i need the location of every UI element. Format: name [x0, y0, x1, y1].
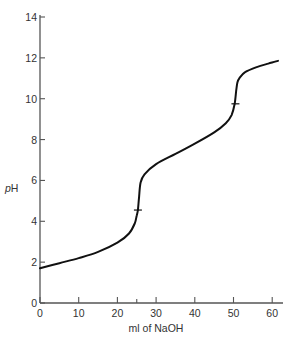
y-axis-title-h: H: [11, 182, 19, 194]
x-axis-title: ml of NaOH: [129, 322, 184, 334]
x-tick-label: 20: [112, 307, 124, 319]
x-tick-label: 30: [150, 307, 162, 319]
x-tick-label: 0: [37, 307, 43, 319]
x-tick-label: 40: [189, 307, 201, 319]
y-axis-title: pH: [4, 182, 18, 194]
titration-chart: 02468101214 0102030405060 ml of NaOH pH: [0, 0, 292, 347]
y-tick-label: 4: [31, 215, 37, 227]
titration-curve: [40, 61, 278, 268]
y-tick-label: 12: [25, 52, 37, 64]
x-tick-label: 60: [266, 307, 278, 319]
x-tick-label: 50: [228, 307, 240, 319]
x-tick-label: 10: [73, 307, 85, 319]
y-tick-label: 8: [31, 134, 37, 146]
y-tick-label: 10: [25, 93, 37, 105]
x-axis: 0102030405060: [37, 297, 283, 319]
y-tick-label: 2: [31, 256, 37, 268]
y-tick-label: 14: [25, 11, 37, 23]
y-tick-label: 6: [31, 174, 37, 186]
y-axis: 02468101214: [25, 11, 45, 309]
equivalence-point-marks: [134, 104, 240, 210]
